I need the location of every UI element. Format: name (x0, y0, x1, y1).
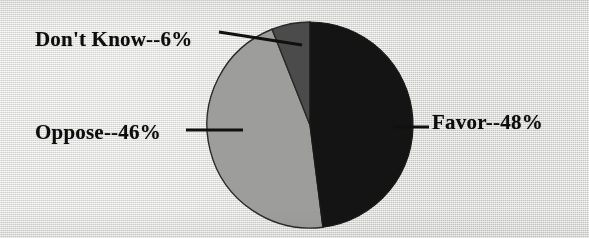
pie-label-dont-know: Don't Know--6% (35, 27, 192, 52)
pie-label-favor: Favor--48% (432, 110, 543, 135)
pie-label-oppose: Oppose--46% (35, 120, 161, 145)
pie-slice-favor[interactable] (310, 22, 413, 227)
pie-chart-figure: Don't Know--6% Oppose--46% Favor--48% (0, 0, 589, 238)
